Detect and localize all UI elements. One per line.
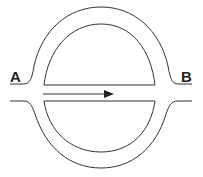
label-b: B: [181, 68, 192, 85]
inner-bottom-path: [44, 101, 155, 152]
diagram-canvas: A B: [0, 0, 203, 177]
arrow-head-icon: [104, 90, 114, 98]
inner-top-path: [44, 24, 155, 85]
label-a: A: [10, 68, 21, 85]
flow-paths: [0, 0, 203, 177]
outer-top-path: [10, 7, 192, 84]
outer-bottom-path: [10, 101, 192, 168]
